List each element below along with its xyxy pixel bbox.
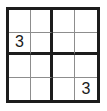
sudoku-cell-r1c1[interactable] — [9, 10, 31, 33]
sudoku-cell-r2c2[interactable] — [31, 33, 53, 56]
sudoku-cell-r3c4[interactable] — [75, 55, 97, 78]
sudoku-cell-r4c3[interactable] — [53, 78, 75, 101]
sudoku-cell-r1c4[interactable] — [75, 10, 97, 33]
sudoku-cell-value: 3 — [82, 81, 91, 97]
sudoku-cell-r4c4[interactable]: 3 — [75, 78, 97, 101]
sudoku-cell-r1c3[interactable] — [53, 10, 75, 33]
sudoku-puzzle-container: 3 — [0, 0, 107, 111]
sudoku-cell-r3c2[interactable] — [31, 55, 53, 78]
sudoku-grid: 3 — [6, 7, 100, 103]
sudoku-cell-r3c3[interactable] — [53, 55, 75, 78]
sudoku-cell-r4c2[interactable] — [31, 78, 53, 101]
sudoku-cell-r2c3[interactable] — [53, 33, 75, 56]
sudoku-cell-r1c2[interactable] — [31, 10, 53, 33]
sudoku-cell-r2c1[interactable]: 3 — [9, 33, 31, 56]
sudoku-cell-r3c1[interactable] — [9, 55, 31, 78]
sudoku-cell-value: 3 — [15, 34, 24, 50]
sudoku-cell-r2c4[interactable] — [75, 33, 97, 56]
sudoku-cell-r4c1[interactable] — [9, 78, 31, 101]
